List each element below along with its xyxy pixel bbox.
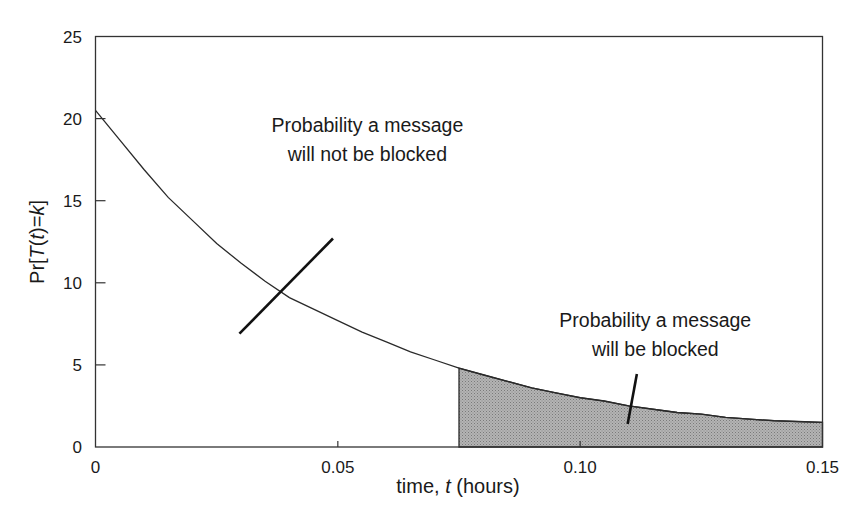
y-tick-label: 5 xyxy=(73,356,82,375)
y-tick-label: 15 xyxy=(63,192,82,211)
annotation-1: Probability a messagewill not be blocked xyxy=(239,114,463,334)
y-tick-label: 25 xyxy=(63,28,82,47)
chart: 0510152025 00.050.100.15 time, t (hours)… xyxy=(0,0,854,528)
y-tick-label: 0 xyxy=(73,438,82,457)
y-axis-label: Pr[T(t)=k] xyxy=(26,200,48,284)
x-tick-label: 0.15 xyxy=(806,458,839,477)
y-tick-label: 20 xyxy=(63,110,82,129)
annotation-text: will not be blocked xyxy=(287,143,447,165)
annotation-text: Probability a message xyxy=(271,114,463,136)
x-tick-label: 0 xyxy=(91,458,100,477)
y-tick-label: 10 xyxy=(63,274,82,293)
annotation-text: Probability a message xyxy=(559,309,751,331)
annotation-text: will be blocked xyxy=(591,338,719,360)
annotation-leader-line xyxy=(239,238,333,333)
y-axis-ticks: 0510152025 xyxy=(63,28,105,458)
x-axis-label: time, t (hours) xyxy=(396,475,519,497)
x-tick-label: 0.10 xyxy=(564,458,597,477)
x-tick-label: 0.05 xyxy=(321,458,354,477)
